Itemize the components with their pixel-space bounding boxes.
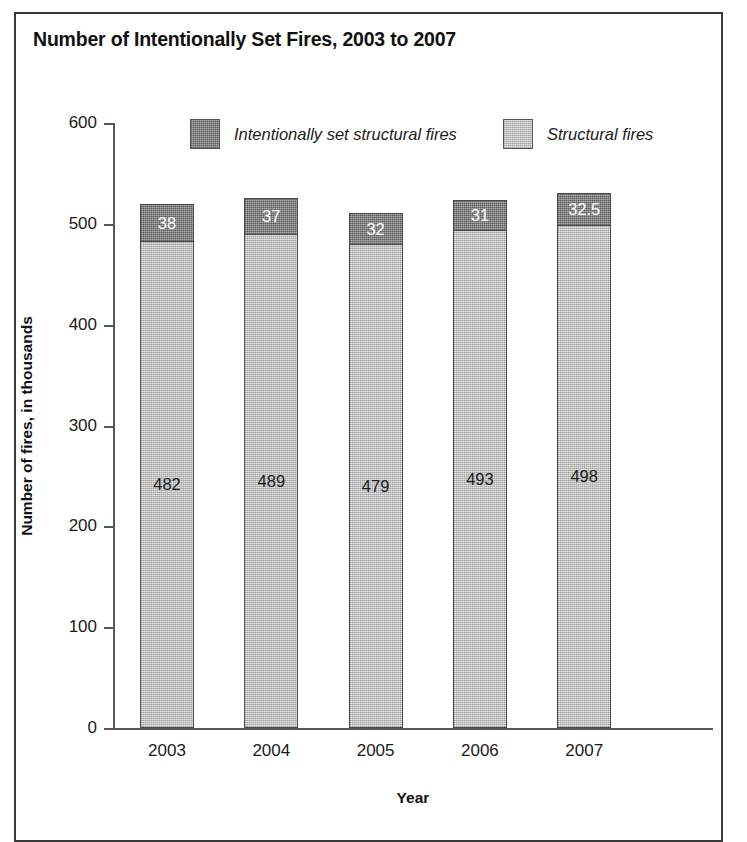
y-tick-mark (104, 426, 115, 428)
bar-value-label-bottom: 482 (141, 476, 193, 493)
y-tick-mark (104, 325, 115, 327)
chart-title: Number of Intentionally Set Fires, 2003 … (33, 28, 456, 51)
y-tick-label: 300 (37, 416, 97, 436)
y-tick-label: 400 (37, 315, 97, 335)
bar-segment-intentionally-set[interactable]: 31 (453, 200, 507, 231)
bar-segment-structural[interactable]: 479 (349, 245, 403, 728)
y-tick-mark (104, 224, 115, 226)
bar-segment-intentionally-set[interactable]: 32 (349, 213, 403, 245)
bar-segment-structural[interactable]: 482 (140, 242, 194, 728)
x-axis-title: Year (113, 789, 713, 807)
bar-segment-intentionally-set[interactable]: 38 (140, 204, 194, 242)
y-tick-label: 100 (37, 617, 97, 637)
y-tick-mark (104, 728, 115, 730)
x-tick-label: 2006 (420, 741, 540, 761)
y-tick-mark (104, 627, 115, 629)
bar-value-label-top: 37 (262, 208, 280, 225)
bar-value-label-top: 32 (366, 221, 384, 238)
x-tick-label: 2007 (524, 741, 644, 761)
bar-value-label-bottom: 498 (558, 468, 610, 485)
bar-stack[interactable]: 32.5498 (557, 193, 611, 728)
x-axis-line (104, 728, 713, 730)
y-tick-label: 200 (37, 516, 97, 536)
bar-stack[interactable]: 38482 (140, 204, 194, 728)
y-tick-label: 600 (37, 113, 97, 133)
bar-value-label-bottom: 489 (245, 473, 297, 490)
x-tick-label: 2005 (316, 741, 436, 761)
y-tick-label: 500 (37, 214, 97, 234)
x-tick-label: 2003 (107, 741, 227, 761)
bar-stack[interactable]: 31493 (453, 200, 507, 728)
y-tick-label: 0 (37, 718, 97, 738)
bar-segment-structural[interactable]: 498 (557, 226, 611, 728)
bar-segment-intentionally-set[interactable]: 32.5 (557, 193, 611, 226)
bar-value-label-top: 31 (471, 207, 489, 224)
plot-area: 0100200300400500600 38482374893247931493… (113, 123, 713, 729)
bar-value-label-top: 38 (158, 215, 176, 232)
bar-stack[interactable]: 32479 (349, 213, 403, 728)
bar-value-label-bottom: 493 (454, 471, 506, 488)
bar-value-label-bottom: 479 (350, 478, 402, 495)
bar-segment-intentionally-set[interactable]: 37 (244, 198, 298, 235)
bar-value-label-top: 32.5 (568, 201, 600, 218)
y-tick-mark (104, 123, 115, 125)
bar-segment-structural[interactable]: 493 (453, 231, 507, 728)
bar-segment-structural[interactable]: 489 (244, 235, 298, 728)
bar-stack[interactable]: 37489 (244, 198, 298, 728)
x-tick-label: 2004 (211, 741, 331, 761)
y-tick-mark (104, 526, 115, 528)
y-axis-title: Number of fires, in thousands (18, 316, 36, 536)
